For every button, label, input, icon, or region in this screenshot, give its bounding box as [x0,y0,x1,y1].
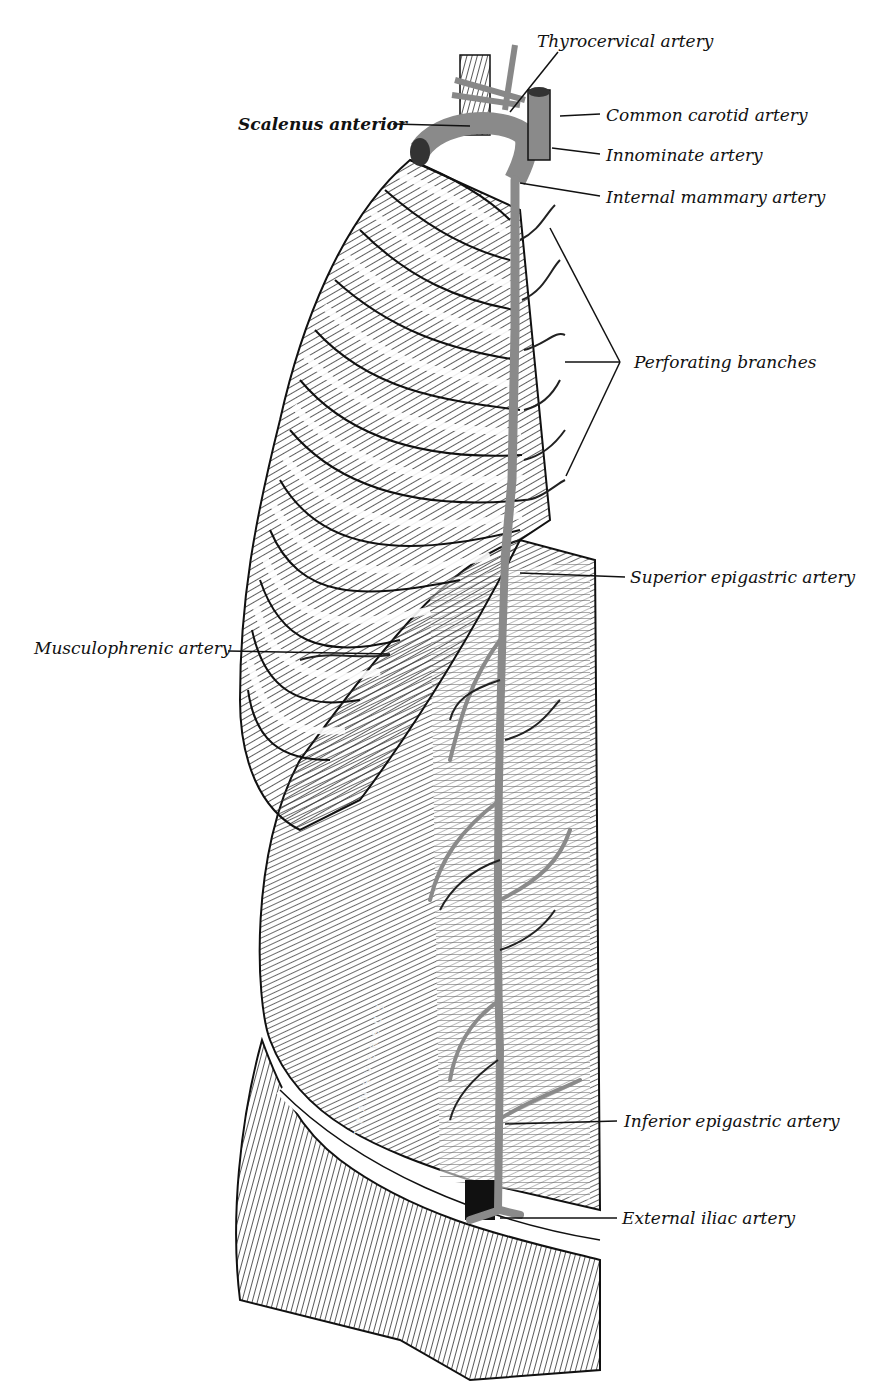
label-innominate-artery: Innominate artery [606,145,763,165]
label-superior-epigastric-artery: Superior epigastric artery [630,567,855,587]
label-inferior-epigastric-artery: Inferior epigastric artery [624,1111,840,1131]
anatomy-figure: TRANSVERSUS Thyrocervical artery Scalenu… [0,0,876,1399]
label-perforating-branches: Perforating branches [634,352,817,372]
label-thyrocervical-artery: Thyrocervical artery [537,31,713,51]
neck-structures [410,45,550,180]
label-musculophrenic-artery: Musculophrenic artery [34,638,231,658]
label-common-carotid-artery: Common carotid artery [606,105,808,125]
label-external-iliac-artery: External iliac artery [622,1208,795,1228]
anatomical-illustration [0,0,876,1399]
label-scalenus-anterior: Scalenus anterior [238,114,407,134]
label-internal-mammary-artery: Internal mammary artery [606,187,825,207]
